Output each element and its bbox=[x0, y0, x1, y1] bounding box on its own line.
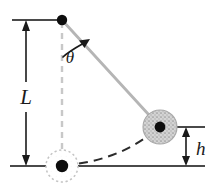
reference-lines bbox=[10, 20, 205, 166]
height-arrowhead-bottom bbox=[182, 156, 190, 166]
angle-label: θ bbox=[66, 48, 74, 67]
bob-center-dot bbox=[155, 122, 166, 133]
bob-lowest-position bbox=[46, 150, 78, 182]
height-dimension: h bbox=[182, 127, 206, 166]
length-dimension: L bbox=[19, 20, 32, 166]
pendulum-diagram-canvas: θ L h bbox=[0, 0, 216, 187]
pivot-point bbox=[57, 15, 67, 25]
height-arrowhead-top bbox=[182, 127, 190, 137]
length-arrowhead-bottom bbox=[22, 155, 30, 166]
pendulum-rod bbox=[62, 20, 160, 127]
pendulum-figure: θ L h bbox=[0, 0, 216, 187]
height-label: h bbox=[196, 138, 206, 159]
ghost-bob-center-dot bbox=[56, 160, 68, 172]
length-arrowhead-top bbox=[22, 20, 30, 31]
length-label: L bbox=[19, 85, 32, 109]
angle-indicator: θ bbox=[63, 39, 90, 67]
bob-raised-position bbox=[143, 110, 177, 144]
theta-arrowhead bbox=[79, 39, 90, 48]
